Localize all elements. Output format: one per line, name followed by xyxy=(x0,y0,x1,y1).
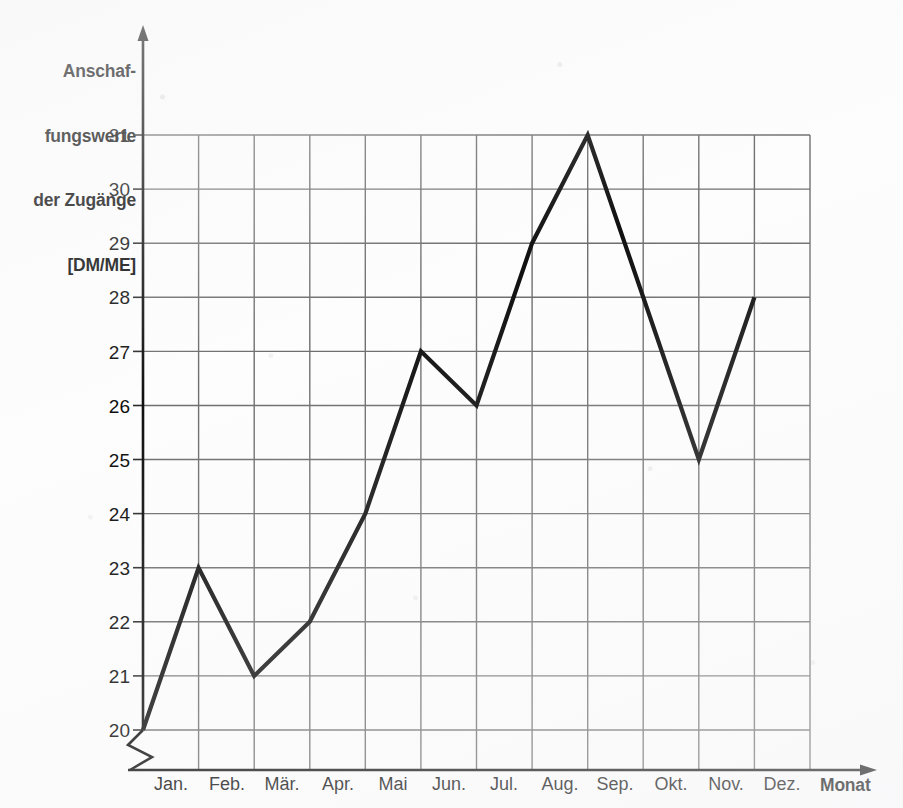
y-axis-arrow-icon xyxy=(138,25,149,41)
axis-break-zigzag-icon xyxy=(128,730,152,770)
data-series-line xyxy=(143,135,754,730)
y-axis-tick-marks xyxy=(133,135,143,730)
vertical-gridlines xyxy=(199,135,810,770)
x-axis xyxy=(128,765,877,776)
line-chart: Anschaf- fungswerte der Zugänge [DM/ME] … xyxy=(0,0,903,808)
x-axis-arrow-icon xyxy=(860,765,877,776)
chart-canvas xyxy=(0,0,903,808)
y-axis xyxy=(138,25,149,730)
